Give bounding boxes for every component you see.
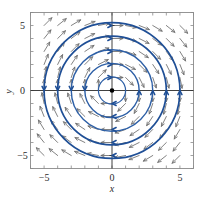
field-arrow-shaft (44, 30, 51, 39)
field-arrow-shaft (71, 55, 77, 64)
phase-portrait-figure: −505−505xy (0, 0, 203, 201)
field-arrow-shaft (38, 120, 44, 129)
field-arrow-shaft (85, 45, 94, 51)
field-arrow-shaft (65, 107, 71, 116)
field-arrow-shaft (159, 143, 167, 151)
field-arrow-shaft (62, 150, 71, 156)
field-arrow-shaft (180, 39, 187, 48)
field-arrow-shaft (37, 134, 44, 143)
field-arrow-shaft (58, 19, 67, 26)
orbit-direction-arrow (112, 140, 116, 144)
field-arrow-shaft (58, 31, 66, 39)
field-arrow-shaft (50, 135, 58, 143)
y-tick-label: 5 (20, 20, 25, 31)
field-arrow-shaft (180, 26, 188, 34)
field-arrow-shaft (44, 42, 50, 51)
field-arrow-shaft (36, 148, 44, 156)
field-arrow-shaft (91, 96, 99, 104)
y-axis-label: y (3, 89, 14, 95)
field-arrow-shaft (172, 156, 180, 164)
field-arrow-shaft (118, 104, 126, 112)
field-arrow-shaft (174, 130, 180, 139)
field-arrow-shaft (44, 18, 52, 26)
x-tick-label: 5 (177, 172, 182, 183)
field-arrow-shaft (166, 26, 175, 33)
equilibrium-point (110, 88, 115, 93)
x-tick-label: 0 (110, 172, 115, 183)
x-axis-label: x (109, 183, 115, 194)
field-arrow-shaft (153, 65, 159, 74)
field-arrow-shaft (173, 143, 180, 152)
field-arrow-shaft (49, 149, 58, 156)
y-tick-label: −5 (17, 150, 28, 161)
field-arrow-shaft (180, 52, 186, 61)
equilibrium-dot (110, 88, 115, 93)
field-arrow-shaft (143, 156, 152, 162)
field-arrow-shaft (139, 52, 148, 58)
orbit-direction-arrow (108, 36, 112, 40)
field-arrow-shaft (166, 39, 174, 47)
field-arrow-shaft (130, 130, 139, 136)
field-arrow-shaft (153, 26, 162, 32)
x-tick-label: −5 (39, 172, 50, 183)
y-tick-label: 0 (20, 85, 25, 96)
field-arrow-shaft (71, 20, 80, 26)
field-arrow-shaft (147, 117, 153, 126)
field-arrow-shaft (76, 123, 85, 129)
phase-portrait-svg: −505−505xy (0, 0, 203, 201)
field-arrow-shaft (98, 70, 106, 78)
field-arrow-shaft (126, 78, 134, 86)
field-arrow-shaft (158, 156, 167, 163)
